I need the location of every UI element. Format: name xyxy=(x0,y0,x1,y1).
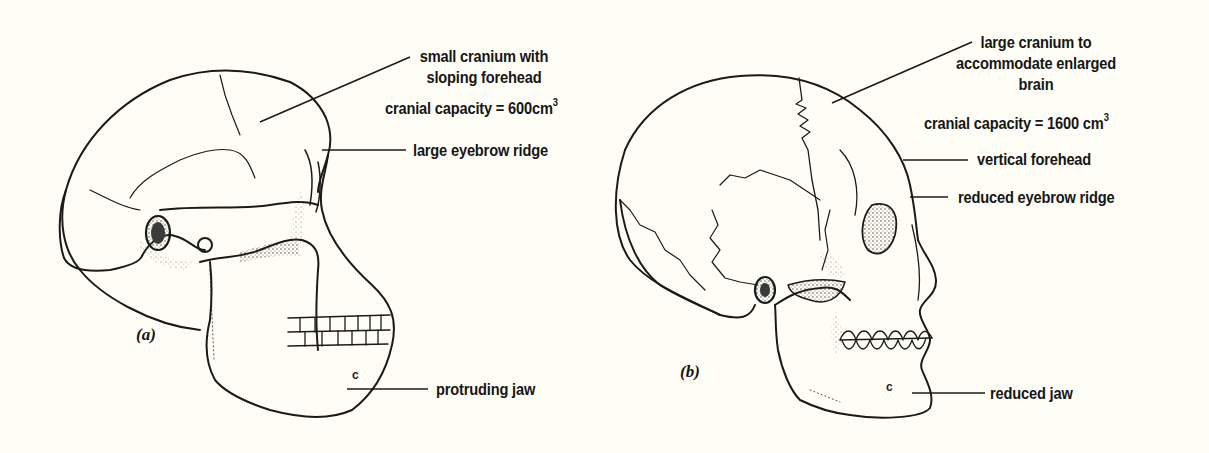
skull-a-ape xyxy=(60,70,394,416)
panel-tag-b: (b) xyxy=(680,362,700,382)
superscript: 3 xyxy=(1104,111,1109,123)
label-reduced-eyebrow-ridge: reduced eyebrow ridge xyxy=(958,187,1114,208)
label-line: sloping forehead xyxy=(413,67,555,88)
capacity-text: cranial capacity = 1600 cm xyxy=(924,114,1104,133)
jaw-mark-b: c xyxy=(886,380,893,394)
label-reduced-jaw: reduced jaw xyxy=(990,383,1073,404)
label-line: large cranium to xyxy=(950,32,1122,53)
skull-comparison-figure: small cranium with sloping forehead cran… xyxy=(0,0,1209,453)
label-capacity-a: cranial capacity = 600cm3 xyxy=(385,93,558,119)
label-large-cranium: large cranium to accommodate enlarged br… xyxy=(950,32,1122,95)
capacity-text: cranial capacity = 600cm xyxy=(385,99,553,118)
skull-b-human xyxy=(616,75,936,417)
label-small-cranium: small cranium with sloping forehead xyxy=(413,46,555,88)
jaw-mark-a: c xyxy=(352,368,359,382)
label-line: accommodate enlarged xyxy=(950,53,1122,74)
label-capacity-b: cranial capacity = 1600 cm3 xyxy=(924,108,1109,134)
panel-tag-a: (a) xyxy=(136,325,156,345)
label-line: small cranium with xyxy=(413,46,555,67)
superscript: 3 xyxy=(553,96,558,108)
label-large-eyebrow-ridge: large eyebrow ridge xyxy=(413,140,548,161)
label-protruding-jaw: protruding jaw xyxy=(436,379,535,400)
label-vertical-forehead: vertical forehead xyxy=(977,149,1091,170)
label-line: brain xyxy=(950,74,1122,95)
